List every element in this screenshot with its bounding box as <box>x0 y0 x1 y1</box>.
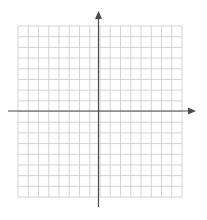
y-axis-arrow-icon <box>95 11 102 19</box>
x-axis-arrow-icon <box>188 108 196 115</box>
coordinate-plane <box>0 0 207 220</box>
coordinate-grid <box>0 0 207 220</box>
axes <box>8 11 196 207</box>
